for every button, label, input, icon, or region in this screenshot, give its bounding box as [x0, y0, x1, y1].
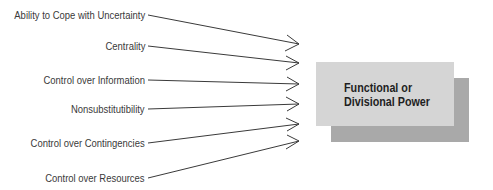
target-title-line1: Functional or — [344, 81, 430, 95]
target-title-line2: Divisional Power — [344, 95, 430, 109]
arrow-resources — [148, 135, 299, 178]
arrow-information — [148, 77, 299, 91]
arrow-nonsubstitutibility — [148, 97, 299, 111]
target-box: Functional or Divisional Power — [316, 62, 454, 126]
arrow-contingencies — [148, 118, 299, 143]
arrow-centrality — [148, 46, 299, 70]
arrow-uncertainty — [148, 15, 299, 51]
target-title: Functional or Divisional Power — [344, 81, 430, 109]
